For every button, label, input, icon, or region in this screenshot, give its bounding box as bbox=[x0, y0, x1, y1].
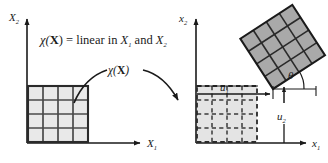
mapping-arrow-label: χ(X) bbox=[107, 64, 129, 77]
displacement-u2: u2 bbox=[277, 87, 287, 143]
mapping-equation: χ(X) = linear in X1 and X2 bbox=[39, 33, 167, 48]
left-axis-y-label: X2 bbox=[8, 11, 20, 25]
right-panel-current-configuration: x2 x1 bbox=[178, 5, 325, 151]
svg-text:χ(X) = linear in X1 and X2: χ(X) = linear in X1 and X2 bbox=[39, 33, 167, 48]
mapping-arrow: χ(X) bbox=[74, 64, 178, 103]
left-panel-reference-configuration: X2 X1 bbox=[8, 11, 157, 151]
right-axis-x-label: x1 bbox=[311, 137, 320, 151]
rotation-angle-label: θ bbox=[288, 69, 294, 81]
left-axis-x-label: X1 bbox=[146, 137, 157, 151]
right-axis-y-label: x2 bbox=[178, 12, 188, 26]
displacement-u1-label: u1 bbox=[220, 81, 229, 95]
displacement-u2-label: u2 bbox=[277, 110, 287, 124]
figure-canvas: X2 X1 χ(X) = linear in X1 and X2 χ(X) x2… bbox=[0, 0, 328, 163]
deformation-mapping-figure: X2 X1 χ(X) = linear in X1 and X2 χ(X) x2… bbox=[0, 0, 328, 163]
deformed-rotated-grid bbox=[240, 5, 325, 89]
